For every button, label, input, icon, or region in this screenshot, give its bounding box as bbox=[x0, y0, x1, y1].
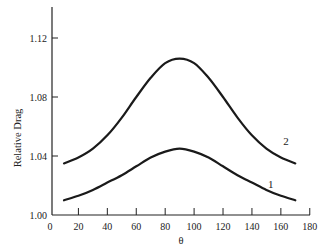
x-tick-label: 60 bbox=[131, 221, 141, 232]
y-tick-label: 1.12 bbox=[30, 33, 48, 44]
series-label-1: 1 bbox=[268, 178, 274, 190]
series-label-2: 2 bbox=[283, 135, 289, 147]
relative-drag-chart: 1.001.041.081.12 02040608010012014016018… bbox=[0, 0, 319, 252]
series-labels: 21 bbox=[268, 135, 289, 190]
y-tick-label: 1.04 bbox=[30, 151, 48, 162]
x-tick-label: 140 bbox=[244, 221, 259, 232]
x-tick-label: 160 bbox=[273, 221, 288, 232]
x-axis-title: θ bbox=[178, 235, 183, 246]
x-tick-label: 0 bbox=[48, 221, 53, 232]
y-ticks: 1.001.041.081.12 bbox=[30, 33, 59, 221]
x-tick-label: 80 bbox=[160, 221, 170, 232]
y-axis-title: Relative Drag bbox=[12, 108, 23, 167]
x-tick-label: 40 bbox=[102, 221, 112, 232]
x-tick-label: 180 bbox=[302, 221, 317, 232]
y-tick-label: 1.00 bbox=[30, 210, 48, 221]
x-ticks: 020406080100120140160180 bbox=[48, 208, 318, 232]
x-tick-label: 20 bbox=[73, 221, 83, 232]
curve-series-1 bbox=[64, 149, 295, 201]
x-tick-label: 120 bbox=[216, 221, 231, 232]
data-curves bbox=[64, 59, 295, 201]
y-tick-label: 1.08 bbox=[30, 92, 48, 103]
x-tick-label: 100 bbox=[187, 221, 202, 232]
